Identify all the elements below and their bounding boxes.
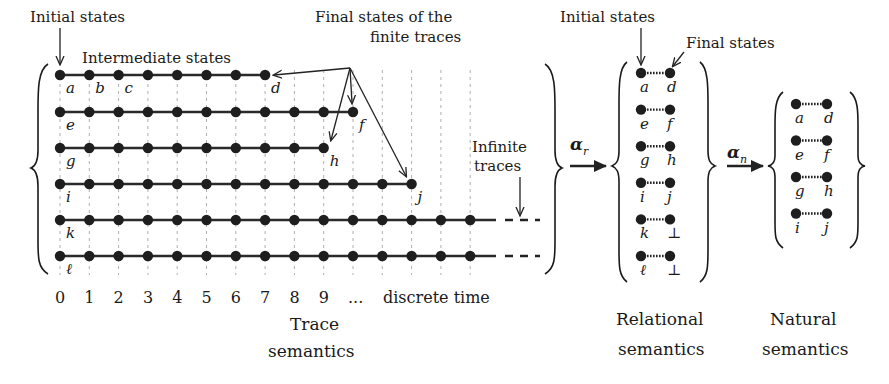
time-tick-label: 1 [84, 288, 94, 307]
state-label: ℓ [66, 260, 72, 278]
state-node [84, 251, 94, 261]
time-tick-label: 3 [143, 288, 153, 307]
final-states-arrows [274, 68, 406, 176]
right-brace [545, 64, 562, 274]
initial-state-label: ℓ [640, 261, 646, 279]
state-node [348, 215, 358, 225]
state-node [231, 215, 241, 225]
discrete-time-label: discrete time [383, 288, 490, 307]
state-label: j [415, 188, 423, 206]
infinite-traces-label-line1: Infinite [472, 138, 527, 156]
trace-row: gh [55, 143, 340, 170]
state-pair: ℓ⊥ [636, 251, 681, 279]
natural-title-line2: semantics [762, 339, 849, 359]
state-node [319, 143, 329, 153]
time-grid-lines [60, 70, 470, 275]
state-node [113, 143, 123, 153]
state-node [377, 215, 387, 225]
state-node [436, 251, 446, 261]
arrow-to-h [331, 68, 350, 140]
final-state-node [822, 208, 832, 218]
state-node [465, 251, 475, 261]
state-pair: ef [791, 135, 832, 163]
time-tick-label: 9 [319, 288, 329, 307]
state-node [55, 251, 65, 261]
initial-state-node [636, 141, 646, 151]
state-node [319, 251, 329, 261]
state-pair: ad [791, 99, 834, 127]
relational-title-line1: Relational [616, 309, 703, 329]
final-states-label-line2: finite traces [370, 28, 461, 46]
state-node [231, 70, 241, 80]
initial-state-node [791, 99, 801, 109]
state-node [55, 215, 65, 225]
state-node [201, 251, 211, 261]
trace-row: abcd [55, 70, 281, 97]
state-node [113, 215, 123, 225]
state-node [113, 107, 123, 117]
relational-title-line2: semantics [618, 339, 705, 359]
final-state-label: f [823, 146, 832, 164]
left-brace [31, 64, 48, 274]
state-node [289, 179, 299, 189]
state-node [319, 107, 329, 117]
initial-state-label: e [795, 146, 804, 164]
state-node [172, 215, 182, 225]
alpha-n-symbol: α [727, 142, 740, 162]
state-pair: ij [636, 178, 675, 206]
state-node [406, 215, 416, 225]
relational-left-brace [612, 62, 627, 282]
initial-state-label: g [795, 182, 805, 200]
state-pair: k⊥ [636, 214, 681, 242]
time-tick-label: ... [348, 288, 363, 307]
final-state-label: h [824, 182, 834, 200]
alpha-r-abstraction: α r [570, 134, 606, 166]
initial-state-node [791, 208, 801, 218]
final-state-node [665, 214, 675, 224]
state-node [201, 143, 211, 153]
trace-semantics-title-line1: Trace [290, 314, 339, 334]
state-node [289, 107, 299, 117]
state-node [55, 143, 65, 153]
final-state-label: j [821, 219, 829, 237]
final-state-label: f [666, 115, 675, 133]
trace-semantics-title-line2: semantics [268, 341, 355, 361]
initial-state-label: g [640, 151, 650, 169]
final-state-label: d [824, 109, 834, 127]
state-node [84, 70, 94, 80]
state-node [231, 107, 241, 117]
final-state-label: h [667, 151, 677, 169]
state-node [289, 215, 299, 225]
trace-row: ef [55, 107, 367, 134]
state-node [55, 70, 65, 80]
relational-semantics-panel: Initial states Final states adefghijk⊥ℓ⊥… [560, 8, 775, 359]
initial-state-label: i [795, 219, 800, 237]
initial-state-label: i [640, 188, 645, 206]
state-node [113, 251, 123, 261]
initial-state-node [791, 172, 801, 182]
arrow-to-d [274, 68, 350, 75]
final-state-node [665, 104, 675, 114]
initial-state-node [791, 135, 801, 145]
state-label: c [125, 79, 134, 97]
state-node [55, 179, 65, 189]
state-label: i [66, 188, 71, 206]
state-node [201, 179, 211, 189]
state-label: e [66, 116, 75, 134]
state-node [113, 179, 123, 189]
state-node [260, 251, 270, 261]
state-node [260, 70, 270, 80]
final-state-label: ⊥ [667, 224, 681, 242]
state-node [377, 179, 387, 189]
state-node [348, 251, 358, 261]
initial-state-node [636, 178, 646, 188]
state-label: d [271, 79, 281, 97]
state-node [172, 143, 182, 153]
state-node [84, 179, 94, 189]
alpha-r-symbol: α [570, 134, 583, 154]
initial-states-label: Initial states [30, 8, 125, 26]
natural-left-brace [768, 92, 783, 248]
relational-final-arrow [673, 52, 684, 66]
state-node [172, 70, 182, 80]
initial-state-label: a [640, 78, 649, 96]
